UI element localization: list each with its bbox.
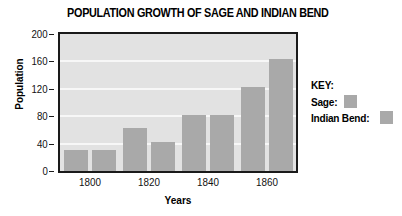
chart-title: POPULATION GROWTH OF SAGE AND INDIAN BEN… [67, 6, 289, 20]
legend-entry-label: Sage: [311, 96, 337, 108]
legend-color-swatch [344, 95, 357, 108]
x-axis: 1800182018401860 [58, 176, 298, 192]
y-tick-mark [49, 89, 54, 90]
legend-entry: Indian Bend: [311, 111, 401, 124]
y-tick-mark [49, 171, 54, 172]
x-axis-title: Years [68, 194, 289, 206]
y-tick-label: 80 [37, 110, 48, 122]
y-tick-mark [49, 34, 54, 35]
y-tick-mark [49, 116, 54, 117]
y-tick-label: 0 [43, 165, 48, 177]
x-tick-label: 1860 [243, 176, 290, 188]
bar [151, 142, 175, 171]
gridline [60, 60, 296, 62]
bar [210, 115, 234, 171]
bar [182, 115, 206, 171]
population-growth-bar-chart: POPULATION GROWTH OF SAGE AND INDIAN BEN… [0, 0, 402, 216]
legend-entries: Sage:Indian Bend: [311, 95, 401, 124]
y-tick-label: 160 [32, 55, 48, 67]
bar [269, 59, 293, 171]
y-axis-title: Population [13, 44, 25, 123]
x-tick-label: 1800 [66, 176, 113, 188]
x-tick-label: 1820 [125, 176, 172, 188]
y-tick-mark [49, 144, 54, 145]
legend-entry: Sage: [311, 95, 401, 108]
bar [241, 87, 265, 171]
y-tick-label: 40 [37, 138, 48, 150]
legend-color-swatch [380, 111, 393, 124]
bar [64, 150, 88, 171]
y-tick-mark [49, 61, 54, 62]
legend-title: KEY: [311, 79, 392, 91]
bar [123, 128, 147, 171]
bar [92, 150, 116, 171]
plot-inner [60, 34, 296, 171]
plot-area [58, 32, 298, 173]
legend: KEY: Sage:Indian Bend: [311, 79, 401, 127]
y-tick-label: 120 [32, 83, 48, 95]
x-tick-label: 1840 [184, 176, 231, 188]
y-tick-label: 200 [32, 28, 48, 40]
legend-entry-label: Indian Bend: [311, 112, 369, 124]
